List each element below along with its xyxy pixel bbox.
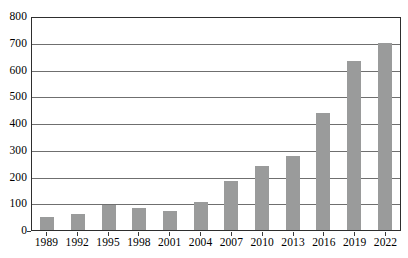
bar[interactable] <box>378 43 392 230</box>
bar[interactable] <box>194 202 208 230</box>
x-axis: 1989199219951998200120042007201020132016… <box>31 237 401 255</box>
y-axis-tick-label: 500 <box>9 92 27 104</box>
bar-slot <box>185 18 216 230</box>
bar-slot <box>216 18 247 230</box>
bar-slot <box>277 18 308 230</box>
bar[interactable] <box>255 166 269 230</box>
bar[interactable] <box>224 181 238 230</box>
x-axis-tick-label: 1998 <box>127 237 150 255</box>
bar-chart-figure: 8007006005004003002001000 19891992199519… <box>0 0 408 258</box>
bar[interactable] <box>286 156 300 230</box>
y-axis-tick-label: 600 <box>9 65 27 77</box>
x-axis-label-slot: 2007 <box>216 237 247 255</box>
bar-slot <box>339 18 370 230</box>
bar-slot <box>63 18 94 230</box>
x-axis-label-slot: 2019 <box>339 237 370 255</box>
x-axis-tick-label: 1995 <box>96 237 119 255</box>
x-axis-label-slot: 2013 <box>278 237 309 255</box>
x-axis-tick-label: 2001 <box>158 237 181 255</box>
bar[interactable] <box>347 61 361 230</box>
x-axis-tick-label: 1989 <box>35 237 58 255</box>
x-axis-label-slot: 1995 <box>93 237 124 255</box>
bar-slot <box>32 18 63 230</box>
bars-group <box>32 18 400 230</box>
x-axis-label-slot: 1989 <box>31 237 62 255</box>
x-axis-tick-label: 2016 <box>312 237 335 255</box>
x-axis-label-slot: 1998 <box>123 237 154 255</box>
bar[interactable] <box>102 205 116 230</box>
bar[interactable] <box>71 214 85 230</box>
x-axis-label-slot: 2016 <box>308 237 339 255</box>
bar[interactable] <box>316 113 330 230</box>
bar-slot <box>93 18 124 230</box>
y-axis-tick-label: 200 <box>9 172 27 184</box>
y-axis-tick-label: 100 <box>9 199 27 211</box>
x-axis-tick-label: 2019 <box>343 237 366 255</box>
x-axis-tick-label: 2007 <box>220 237 243 255</box>
x-axis-tick-label: 2013 <box>281 237 304 255</box>
x-axis-tick-label: 2010 <box>251 237 274 255</box>
x-axis-tick-label: 2022 <box>374 237 397 255</box>
y-axis-tick-label: 300 <box>9 145 27 157</box>
x-axis-tick-label: 2004 <box>189 237 212 255</box>
bar[interactable] <box>40 217 54 230</box>
bar-slot <box>369 18 400 230</box>
x-axis-label-slot: 1992 <box>62 237 93 255</box>
bar-slot <box>308 18 339 230</box>
y-axis: 8007006005004003002001000 <box>0 0 30 258</box>
y-axis-tick-label: 800 <box>9 11 27 23</box>
x-axis-label-slot: 2001 <box>154 237 185 255</box>
plot-area <box>31 17 401 231</box>
bar[interactable] <box>163 211 177 230</box>
x-axis-label-slot: 2010 <box>247 237 278 255</box>
x-axis-label-slot: 2022 <box>370 237 401 255</box>
x-axis-tick-label: 1992 <box>66 237 89 255</box>
y-axis-tick-label: 700 <box>9 38 27 50</box>
bar[interactable] <box>132 208 146 230</box>
bar-slot <box>155 18 186 230</box>
bar-slot <box>124 18 155 230</box>
bar-slot <box>247 18 278 230</box>
x-axis-label-slot: 2004 <box>185 237 216 255</box>
y-axis-tick-label: 400 <box>9 118 27 130</box>
